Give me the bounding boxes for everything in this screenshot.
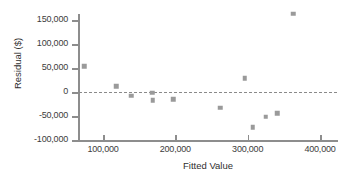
x-axis-line [78, 140, 338, 142]
y-tick [72, 20, 79, 22]
y-tick [72, 116, 79, 118]
x-tick [175, 135, 177, 142]
data-point [151, 98, 156, 103]
data-point [171, 97, 176, 102]
x-tick-label: 100,000 [73, 145, 133, 154]
data-point [275, 111, 280, 116]
residual-scatter-plot: -100,000-50,000050,000100,000150,000 100… [0, 0, 356, 184]
x-tick-label: 300,000 [218, 145, 278, 154]
data-point [291, 12, 296, 17]
y-tick-label: -100,000 [34, 135, 68, 144]
x-tick [103, 135, 105, 142]
x-tick-label: 400,000 [290, 145, 350, 154]
y-axis-title: Residual ($) [12, 26, 23, 102]
data-point [114, 84, 119, 89]
data-point [82, 64, 87, 69]
y-tick [72, 140, 79, 142]
data-point [129, 94, 134, 99]
x-tick [320, 135, 322, 142]
y-axis-line [78, 14, 80, 141]
data-point [243, 76, 248, 81]
zero-reference-line [79, 92, 337, 93]
data-point [250, 125, 255, 130]
y-tick-label: 100,000 [37, 39, 68, 48]
x-axis-title: Fitted Value [78, 160, 338, 171]
data-point [150, 91, 155, 96]
y-tick [72, 44, 79, 46]
y-tick [72, 68, 79, 70]
x-tick-label: 200,000 [145, 145, 205, 154]
y-tick-label: 0 [63, 87, 68, 96]
y-tick-label: -50,000 [39, 111, 68, 120]
y-tick [72, 92, 79, 94]
data-point [218, 106, 223, 111]
x-tick [248, 135, 250, 142]
data-point [264, 115, 269, 120]
y-tick-label: 50,000 [42, 63, 68, 72]
y-tick-label: 150,000 [37, 15, 68, 24]
